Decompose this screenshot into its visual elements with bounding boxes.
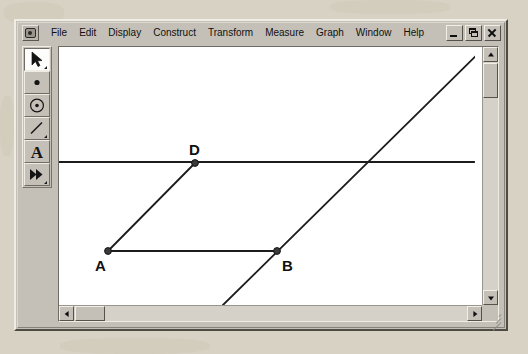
scroll-right-button[interactable] <box>467 306 482 321</box>
vertical-scroll-thumb[interactable] <box>483 63 498 98</box>
horizontal-scrollbar[interactable] <box>59 305 482 321</box>
tool-expand-indicator-icon <box>44 181 47 184</box>
app-icon-glyph <box>25 28 36 38</box>
point-a[interactable] <box>105 248 112 255</box>
scroll-up-button[interactable] <box>483 47 498 62</box>
minimize-button[interactable] <box>446 25 463 41</box>
resize-grip[interactable] <box>488 311 501 324</box>
arrow-left-icon <box>64 311 68 317</box>
menu-bar: File Edit Display Construct Transform Me… <box>19 23 503 42</box>
point-label-b: B <box>282 257 293 274</box>
arrow-up-icon <box>488 52 494 56</box>
straightedge-segment-tool[interactable] <box>24 117 50 140</box>
vertical-scrollbar[interactable] <box>482 47 498 305</box>
tool-expand-indicator-icon <box>44 66 47 69</box>
tool-expand-indicator-icon <box>44 135 47 138</box>
point-b[interactable] <box>274 248 281 255</box>
parallel-line-through-b[interactable] <box>223 47 475 305</box>
sketch-canvas[interactable]: ABD <box>59 47 482 305</box>
point-d[interactable] <box>192 160 199 167</box>
menu-item-window[interactable]: Window <box>350 25 398 40</box>
menu-item-file[interactable]: File <box>45 25 73 40</box>
arrow-down-icon <box>488 296 494 300</box>
point-label-a: A <box>95 257 106 274</box>
point-label-d: D <box>189 141 200 158</box>
close-button[interactable] <box>484 25 501 41</box>
mdi-window-controls <box>446 25 503 41</box>
application-window: File Edit Display Construct Transform Me… <box>14 19 508 331</box>
selection-arrow-tool[interactable] <box>24 48 50 71</box>
menu-item-help[interactable]: Help <box>397 25 430 40</box>
menu-item-display[interactable]: Display <box>102 25 147 40</box>
background-texture-2 <box>330 0 450 14</box>
text-tool[interactable]: A <box>24 140 50 163</box>
arrow-right-icon <box>473 311 477 317</box>
document-client-area: A ABD <box>19 42 503 326</box>
background-texture-4 <box>60 338 210 354</box>
menu-item-construct[interactable]: Construct <box>147 25 202 40</box>
menu-item-measure[interactable]: Measure <box>259 25 310 40</box>
menu-item-graph[interactable]: Graph <box>310 25 350 40</box>
compass-circle-tool[interactable] <box>24 94 50 117</box>
geometry-drawing: ABD <box>59 47 475 305</box>
tool-palette: A <box>22 46 52 188</box>
horizontal-scroll-thumb[interactable] <box>75 306 105 321</box>
restore-icon-front <box>471 31 478 37</box>
background-texture-3 <box>0 96 14 156</box>
sketch-pane: ABD <box>58 46 499 322</box>
scroll-left-button[interactable] <box>59 306 74 321</box>
restore-button[interactable] <box>465 25 482 41</box>
svg-text:A: A <box>31 143 44 162</box>
scroll-down-button[interactable] <box>483 290 498 305</box>
segment-ad[interactable] <box>108 163 195 251</box>
menu-item-transform[interactable]: Transform <box>202 25 259 40</box>
sketchpad-app-icon[interactable] <box>22 25 39 41</box>
minimize-icon <box>450 35 457 37</box>
menu-item-edit[interactable]: Edit <box>73 25 102 40</box>
point-tool[interactable] <box>24 71 50 94</box>
custom-tool[interactable] <box>24 163 50 186</box>
